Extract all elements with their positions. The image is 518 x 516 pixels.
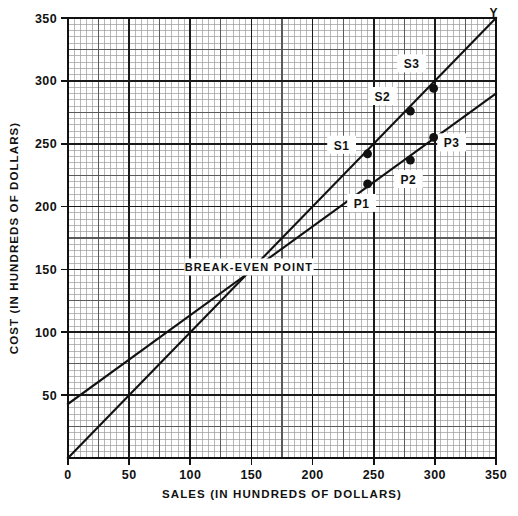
point-label-p1: P1: [354, 197, 370, 211]
y-tick-label: 100: [35, 326, 57, 340]
x-axis-title: SALES (IN HUNDREDS OF DOLLARS): [162, 488, 402, 500]
data-point-s3: [429, 84, 438, 93]
x-tick-label: 50: [122, 468, 137, 482]
y-tick-label: 350: [35, 12, 57, 26]
x-tick-label: 0: [64, 468, 71, 482]
x-tick-label: 300: [424, 468, 446, 482]
y-tick-label: 250: [35, 137, 57, 151]
point-label-s3: S3: [404, 57, 420, 71]
chart-background: [0, 0, 518, 516]
data-point-s1: [363, 149, 372, 158]
x-tick-label: 150: [240, 468, 262, 482]
y-tick-label: 50: [42, 389, 57, 403]
annotation-break-even-point: BREAK-EVEN POINT: [185, 261, 314, 273]
point-label-s2: S2: [375, 90, 391, 104]
point-label-p3: P3: [444, 136, 460, 150]
x-tick-label: 200: [302, 468, 324, 482]
x-tick-label: 250: [363, 468, 385, 482]
data-point-p3: [429, 133, 438, 142]
annotation-y: Y: [490, 6, 498, 20]
chart-canvas: 050100150200250300350 501001502002503003…: [0, 0, 518, 516]
x-tick-label: 100: [179, 468, 201, 482]
x-tick-label: 350: [485, 468, 507, 482]
data-point-p1: [363, 180, 372, 189]
y-tick-label: 150: [35, 263, 57, 277]
y-tick-label: 200: [35, 200, 57, 214]
y-tick-label: 300: [35, 74, 57, 88]
break-even-chart: 050100150200250300350 501001502002503003…: [0, 0, 518, 516]
point-label-p2: P2: [401, 173, 417, 187]
y-axis-title: COST (IN HUNDREDS OF DOLLARS): [8, 122, 20, 355]
data-point-s2: [406, 107, 415, 116]
data-point-p2: [406, 156, 415, 165]
point-label-s1: S1: [334, 139, 350, 153]
